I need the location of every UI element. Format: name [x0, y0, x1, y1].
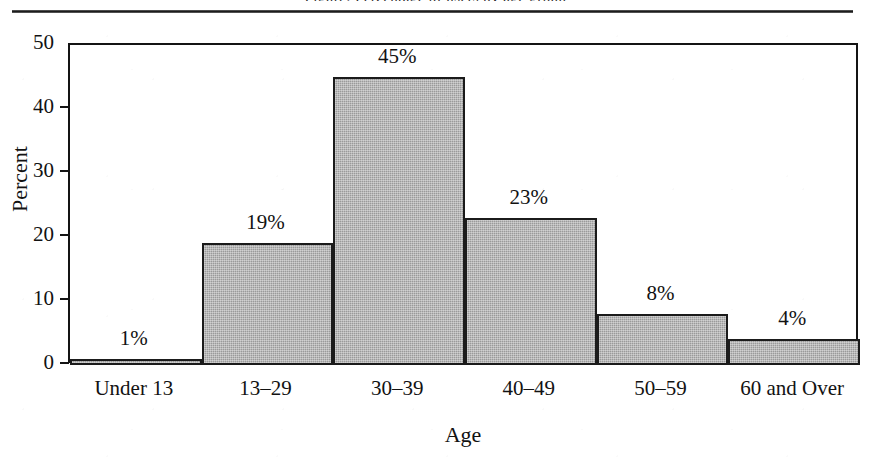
x-axis-tick-label: 50–59 — [595, 376, 727, 400]
bar — [597, 314, 729, 365]
bar — [728, 339, 860, 365]
y-axis-tick-label: 50 — [14, 32, 54, 53]
bar — [202, 243, 334, 365]
bar-value-label: 4% — [726, 308, 858, 329]
y-axis-tick-label: 10 — [14, 288, 54, 309]
x-axis-tick-label: Under 13 — [68, 376, 200, 400]
bar — [70, 359, 202, 365]
bar-value-label: 8% — [595, 283, 727, 304]
y-axis-tick-label: 40 — [14, 96, 54, 117]
bar-value-label: 1% — [68, 328, 200, 349]
x-axis-title: Age — [68, 424, 858, 446]
x-axis-tick-label: 40–49 — [463, 376, 595, 400]
y-axis-tick-label: 0 — [14, 352, 54, 373]
y-axis-tick-label: 30 — [14, 160, 54, 181]
x-axis-tick-label: 60 and Over — [726, 376, 858, 400]
cropped-page-caption: Figure: Percentage of users by age group — [0, 0, 871, 1]
x-axis-tick-label: 13–29 — [200, 376, 332, 400]
bar — [333, 77, 465, 365]
page-divider-rule — [12, 10, 853, 13]
bar-value-label: 19% — [200, 212, 332, 233]
bar-value-label: 23% — [463, 187, 595, 208]
bar-value-label: 45% — [331, 46, 463, 67]
x-axis-tick-label: 30–39 — [331, 376, 463, 400]
y-axis-tick-label: 20 — [14, 224, 54, 245]
bar-chart: Figure: Percentage of users by age group… — [0, 0, 871, 469]
bar — [465, 218, 597, 365]
